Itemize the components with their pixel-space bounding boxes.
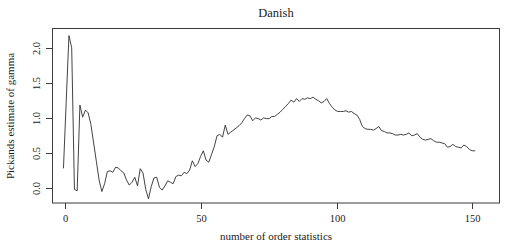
x-axis-title: number of order statistics <box>220 230 332 242</box>
x-tick-label-100: 100 <box>330 213 346 224</box>
x-tick-label-150: 150 <box>465 213 481 224</box>
figure-background <box>0 0 514 247</box>
y-tick-label-1.0: 1.0 <box>31 112 42 125</box>
chart-title: Danish <box>258 6 294 20</box>
y-axis-title: Pickands estimate of gamma <box>4 53 16 179</box>
y-tick-label-2.0: 2.0 <box>31 42 42 55</box>
y-tick-label-1.5: 1.5 <box>31 77 42 90</box>
x-tick-label-0: 0 <box>63 213 68 224</box>
chart-figure: Danish number of order statistics Pickan… <box>0 0 514 247</box>
x-tick-label-50: 50 <box>196 213 207 224</box>
y-tick-label-0.5: 0.5 <box>31 147 42 160</box>
y-tick-label-0.0: 0.0 <box>31 182 42 195</box>
pickands-plot-svg: Danish number of order statistics Pickan… <box>0 0 514 247</box>
